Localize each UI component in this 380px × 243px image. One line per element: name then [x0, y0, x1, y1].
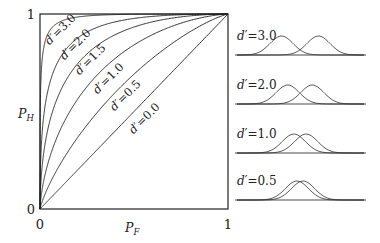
- distribution-label: d′=1.0: [237, 127, 277, 141]
- figure: 1 0 0 1 PH PF d′=3.0d′=2.0d′=1.5d′=1.0d′…: [0, 0, 380, 243]
- y-tick-0: 0: [27, 202, 35, 217]
- curve-label: d′=0.0: [126, 100, 163, 137]
- curve-labels: d′=3.0d′=2.0d′=1.5d′=1.0d′=0.5d′=0.0: [42, 11, 163, 137]
- distribution-panel: d′=0.5: [235, 174, 366, 200]
- distribution-panel: d′=2.0: [235, 78, 366, 104]
- distribution-panels: d′=3.0d′=2.0d′=1.0d′=0.5: [235, 29, 366, 200]
- distribution-panel: d′=1.0: [235, 127, 366, 153]
- y-tick-1: 1: [27, 7, 35, 22]
- distribution-label: d′=3.0: [237, 29, 277, 43]
- distribution-label: d′=2.0: [237, 78, 277, 92]
- distribution-panel: d′=3.0: [235, 29, 366, 55]
- x-tick-1: 1: [224, 217, 232, 232]
- distribution-label: d′=0.5: [237, 174, 277, 188]
- y-axis-label: PH: [17, 106, 34, 123]
- x-axis-label: PF: [124, 220, 140, 237]
- x-tick-0: 0: [36, 217, 44, 232]
- roc-plot: 1 0 0 1 PH PF d′=3.0d′=2.0d′=1.5d′=1.0d′…: [17, 7, 232, 237]
